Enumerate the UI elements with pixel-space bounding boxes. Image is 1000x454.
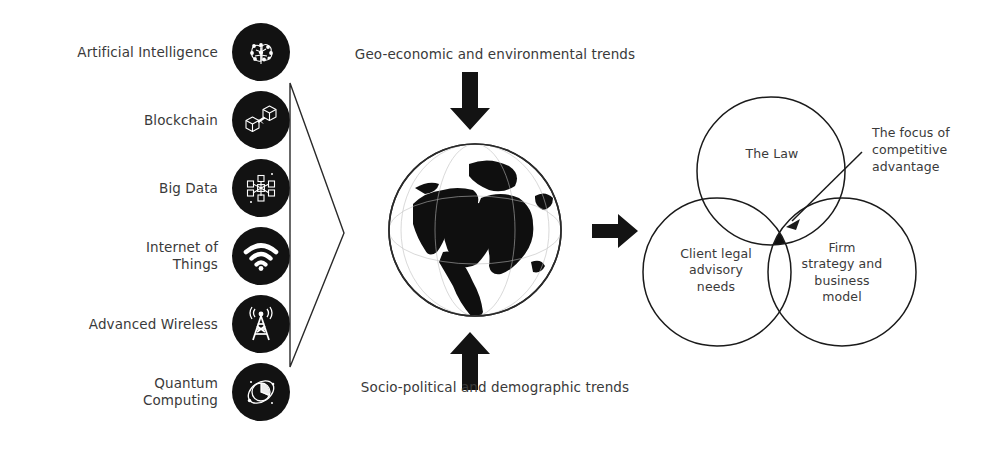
venn-circle-law — [697, 97, 845, 245]
diagram-canvas: Artificial Intelligence — [0, 0, 1000, 454]
technology-label: Blockchain — [0, 112, 232, 129]
triangle-bracket-icon — [282, 70, 352, 384]
technology-list: Artificial Intelligence — [0, 0, 290, 454]
technology-label: Big Data — [0, 180, 232, 197]
technology-label: Artificial Intelligence — [0, 44, 232, 61]
list-item[interactable]: Big Data — [0, 155, 290, 221]
list-item[interactable]: Quantum Computing — [0, 359, 290, 425]
list-item[interactable]: Blockchain — [0, 87, 290, 153]
technology-label: Advanced Wireless — [0, 316, 232, 333]
list-item[interactable]: Internet of Things — [0, 223, 290, 289]
venn-label-focus-of-competitive-advantage: The focus of competitive advantage — [872, 125, 992, 176]
venn-label-firm: Firm strategy and business model — [792, 240, 892, 305]
venn-label-law: The Law — [722, 146, 822, 162]
venn-diagram — [600, 60, 940, 404]
list-item[interactable]: Artificial Intelligence — [0, 19, 290, 85]
callout-arrow-icon — [786, 152, 862, 230]
arrow-down-icon — [440, 72, 500, 136]
technology-label: Quantum Computing — [0, 375, 232, 409]
list-item[interactable]: Advanced Wireless — [0, 291, 290, 357]
technology-label: Internet of Things — [0, 239, 232, 273]
venn-label-client: Client legal advisory needs — [664, 246, 768, 295]
globe-icon — [385, 140, 565, 324]
